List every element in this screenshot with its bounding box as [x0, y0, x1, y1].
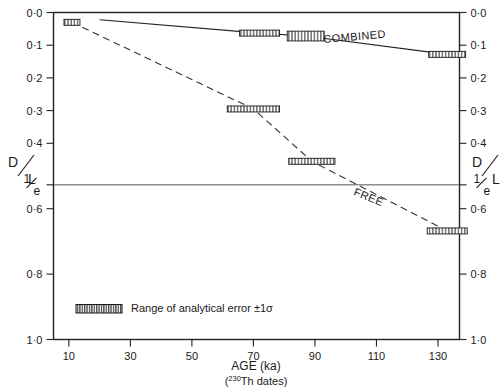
legend-swatch-hatched-bar [76, 305, 122, 314]
y-tick-label-right: 0·2 [471, 72, 487, 84]
error-box-free [64, 19, 80, 25]
y-axis-title-right-numerator: D [472, 154, 482, 170]
y-axis-title-left-denominator: L [28, 171, 36, 187]
one-over-e-denominator-right: e [484, 184, 491, 198]
y-tick-label-right: 0·4 [471, 137, 487, 149]
x-tick-label: 130 [429, 350, 447, 362]
x-tick-label: 90 [309, 350, 321, 362]
error-box-free [427, 228, 467, 234]
error-range-boxes [64, 19, 467, 234]
legend: Range of analytical error ±1σ [76, 302, 273, 314]
y-tick-label-left: 0·3 [27, 105, 43, 117]
error-box-free [227, 106, 279, 112]
x-tick-label: 110 [368, 350, 386, 362]
y-axis-title-left-numerator: D [8, 154, 18, 170]
y-tick-label-left: 0·8 [27, 268, 43, 280]
y-tick-label-right: 1·0 [471, 334, 487, 346]
y-tick-label-left: 0·6 [27, 203, 43, 215]
y-tick-label-left: 0·2 [27, 72, 43, 84]
curve-combined [100, 20, 448, 55]
x-axis-title: AGE (ka) [231, 359, 280, 373]
error-box-combined [429, 51, 466, 57]
y-tick-label-right: 0·1 [471, 39, 487, 51]
data-series [72, 20, 447, 231]
y-tick-label-right: 0·3 [471, 105, 487, 117]
x-tick-label: 10 [63, 350, 75, 362]
series-labels: COMBINEDFREE [323, 28, 386, 209]
one-over-e-numerator-right: 1 [474, 172, 481, 186]
y-tick-label-right: 0·0 [471, 7, 487, 19]
legend-label: Range of analytical error ±1σ [131, 302, 273, 314]
y-tick-label-left: 0·0 [27, 7, 43, 19]
x-axis-subtitle: (230Th dates) [225, 374, 288, 387]
curve-free [72, 22, 447, 231]
dl-vs-age-chart: 1030507090110130 0·00·10·20·30·40·60·81·… [0, 0, 502, 391]
error-box-free [289, 158, 335, 164]
y-tick-label-left: 1·0 [27, 334, 43, 346]
y-tick-label-left: 0·4 [27, 137, 43, 149]
chart-figure: 1030507090110130 0·00·10·20·30·40·60·81·… [0, 0, 502, 391]
y-tick-label-right: 0·8 [471, 268, 487, 280]
plot-frame [54, 13, 460, 340]
y-tick-label-left: 0·1 [27, 39, 43, 51]
y-axis-title-right-denominator: L [492, 171, 500, 187]
y-axis-title-left: D L [8, 154, 36, 187]
x-tick-label: 50 [186, 350, 198, 362]
x-tick-label: 30 [124, 350, 136, 362]
error-box-combined [287, 31, 324, 41]
series-label-free: FREE [352, 185, 385, 208]
error-box-combined [240, 30, 280, 36]
y-tick-label-right: 0·6 [471, 203, 487, 215]
